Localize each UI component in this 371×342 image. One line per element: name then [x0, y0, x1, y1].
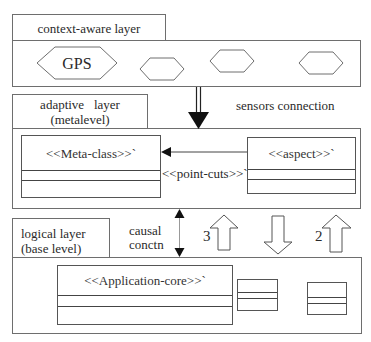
- sensor-hexagon-3: [210, 50, 254, 72]
- gps-label: GPS: [62, 55, 91, 72]
- architecture-diagram: context-aware layer adaptive layer (meta…: [0, 0, 371, 342]
- sensors-connection-arrow: [188, 87, 209, 129]
- gps-sensor-hexagon: GPS: [37, 47, 117, 79]
- block-arrow-down: [264, 216, 292, 254]
- causal-connection-arrow: [175, 209, 185, 257]
- sensor-hexagon-4: [299, 52, 343, 74]
- diagram-shapes: GPS: [0, 0, 371, 342]
- sensor-hexagon-2: [140, 58, 184, 80]
- block-arrow-up-3: [210, 215, 238, 250]
- block-arrow-up-2: [322, 215, 351, 252]
- pointcuts-arrow: [161, 147, 247, 157]
